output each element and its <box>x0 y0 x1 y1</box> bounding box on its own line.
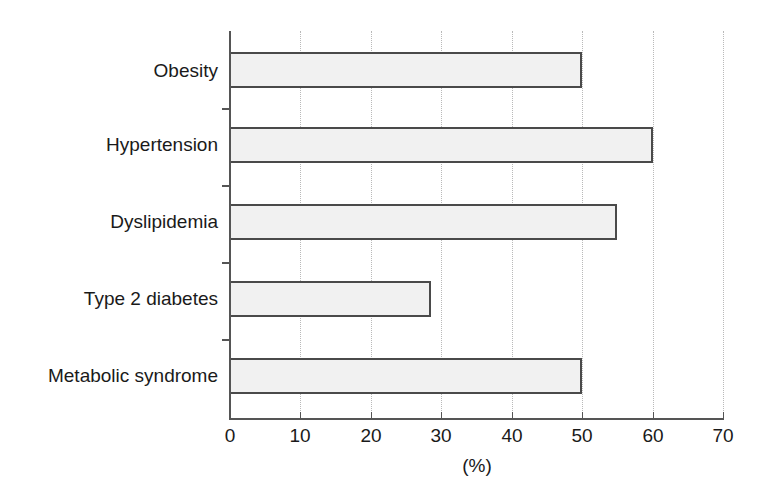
x-axis-tick-label-60: 60 <box>642 424 663 448</box>
x-axis-tick-60 <box>653 412 654 420</box>
x-axis-tick-label-70: 70 <box>712 424 733 448</box>
gridline-60 <box>653 31 654 419</box>
y-axis-tick-2 <box>222 185 230 187</box>
x-axis-tick-50 <box>582 412 583 420</box>
bar-hypertension <box>230 127 653 163</box>
x-axis-tick-label-30: 30 <box>430 424 451 448</box>
x-axis-tick-label-0: 0 <box>225 424 236 448</box>
bar-chart: Obesity Hypertension Dyslipidemia Type 2… <box>0 0 763 497</box>
x-axis-tick-10 <box>300 412 301 420</box>
x-axis-title: (%) <box>462 455 492 477</box>
category-label-type-2-diabetes: Type 2 diabetes <box>0 288 218 310</box>
x-axis-tick-label-20: 20 <box>360 424 381 448</box>
x-axis-tick-20 <box>371 412 372 420</box>
category-label-metabolic-syndrome: Metabolic syndrome <box>0 365 218 387</box>
x-axis-tick-0 <box>230 412 231 420</box>
category-axis-labels: Obesity Hypertension Dyslipidemia Type 2… <box>0 0 218 497</box>
gridline-70 <box>723 31 724 419</box>
x-axis-tick-40 <box>512 412 513 420</box>
x-axis-tick-label-10: 10 <box>289 424 310 448</box>
x-axis-line <box>229 418 724 420</box>
category-label-obesity: Obesity <box>0 60 218 82</box>
bar-dyslipidemia <box>230 204 617 240</box>
category-label-dyslipidemia: Dyslipidemia <box>0 211 218 233</box>
x-axis-tick-label-40: 40 <box>501 424 522 448</box>
x-axis-tick-label-50: 50 <box>571 424 592 448</box>
x-axis-tick-30 <box>441 412 442 420</box>
plot-area <box>230 31 723 419</box>
y-axis-line <box>229 31 231 420</box>
bar-metabolic-syndrome <box>230 358 582 394</box>
bar-obesity <box>230 52 582 88</box>
y-axis-tick-3 <box>222 262 230 264</box>
y-axis-tick-1 <box>222 108 230 110</box>
category-label-hypertension: Hypertension <box>0 134 218 156</box>
y-axis-tick-4 <box>222 339 230 341</box>
x-axis-tick-70 <box>723 412 724 420</box>
bar-type-2-diabetes <box>230 281 431 317</box>
